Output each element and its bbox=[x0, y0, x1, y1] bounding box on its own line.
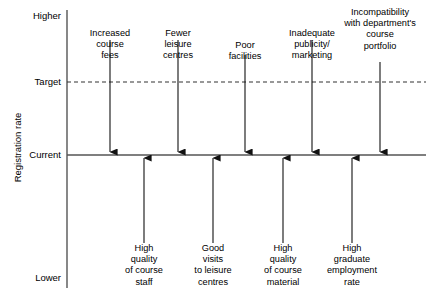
axis-label-lower: Lower bbox=[0, 272, 61, 283]
restraining-label-incompatibility-portfolio: Incompatibility with department's course… bbox=[329, 7, 431, 52]
y-axis-title: Registration rate bbox=[12, 93, 23, 203]
driving-label-high-graduate-employment: High graduate employment rate bbox=[312, 243, 392, 288]
driving-force-arrows bbox=[144, 158, 352, 243]
axis-label-target: Target bbox=[0, 76, 61, 87]
restraining-label-fewer-leisure-centres: Fewer leisure centres bbox=[140, 28, 216, 62]
force-field-diagram: Registration rate Higher Target Current … bbox=[0, 0, 433, 302]
restraining-label-increased-course-fees: Increased course fees bbox=[72, 28, 148, 62]
axis-label-current: Current bbox=[0, 149, 61, 160]
driving-label-high-quality-course-material: High quality of course material bbox=[245, 243, 321, 288]
axis-label-higher: Higher bbox=[0, 10, 61, 21]
driving-label-high-quality-course-staff: High quality of course staff bbox=[106, 243, 182, 288]
driving-label-good-visits-leisure-centres: Good visits to leisure centres bbox=[175, 243, 251, 288]
